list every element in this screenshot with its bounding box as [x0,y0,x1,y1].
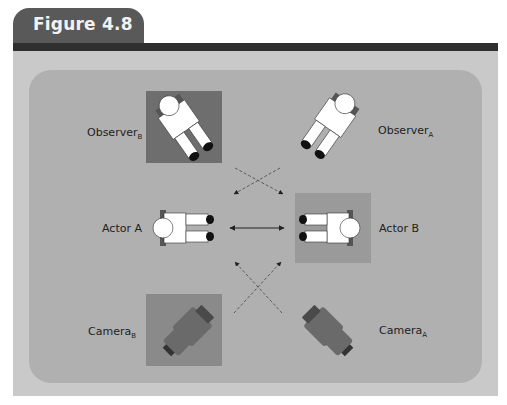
label-subscript: B [137,133,142,141]
label-actor-b: Actor B [379,222,419,235]
label-subscript: A [422,331,427,339]
label-subscript: B [131,332,136,340]
label-observer-a: ObserverA [378,124,433,139]
diagram-graphics [0,0,507,405]
label-text: Camera [88,325,131,338]
label-observer-b: ObserverB [87,126,142,141]
actor-a-figure [153,210,214,246]
label-text: Observer [87,126,137,139]
sightline-camera-b [235,262,282,313]
label-text: Actor B [379,222,419,235]
actor-b-figure [299,210,360,246]
camera-b-icon [157,301,218,362]
label-camera-b: CameraB [88,325,136,340]
label-text: Observer [378,124,428,137]
label-subscript: A [428,131,433,139]
observer-b-figure [150,88,216,164]
sightline-camera-a [234,262,281,313]
label-camera-a: CameraA [379,324,427,339]
sightline-observer-b [235,168,283,194]
label-text: Camera [379,324,422,337]
observer-a-figure [297,86,363,162]
label-actor-a: Actor A [102,222,142,235]
sightline-observer-a [234,168,280,194]
label-text: Actor A [102,222,142,235]
camera-a-icon [298,301,359,362]
